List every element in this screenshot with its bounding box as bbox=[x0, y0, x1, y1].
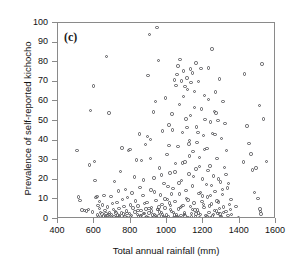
y-tick bbox=[52, 198, 57, 199]
data-point bbox=[206, 169, 209, 172]
x-tick-label: 1400 bbox=[219, 226, 259, 235]
data-point bbox=[262, 117, 265, 120]
data-point bbox=[142, 178, 145, 181]
data-point bbox=[230, 213, 233, 216]
data-point bbox=[189, 114, 192, 117]
data-point bbox=[184, 189, 187, 192]
data-point bbox=[221, 193, 224, 196]
x-tick bbox=[130, 218, 131, 223]
y-tick bbox=[52, 61, 57, 62]
y-tick bbox=[52, 120, 57, 121]
data-point bbox=[165, 153, 168, 156]
x-tick-label: 1000 bbox=[146, 226, 186, 235]
data-point bbox=[154, 100, 157, 103]
data-point bbox=[105, 55, 108, 58]
x-tick-label: 1600 bbox=[255, 226, 295, 235]
data-point bbox=[226, 186, 229, 189]
data-point bbox=[139, 214, 142, 217]
data-points-layer bbox=[58, 23, 274, 217]
x-tick bbox=[275, 218, 276, 223]
data-point bbox=[148, 33, 151, 36]
data-point bbox=[193, 90, 196, 93]
data-point bbox=[95, 195, 98, 198]
data-point bbox=[122, 205, 125, 208]
data-point bbox=[111, 216, 114, 217]
x-tick bbox=[166, 218, 167, 223]
data-point bbox=[149, 157, 152, 160]
data-point bbox=[214, 111, 217, 114]
data-point bbox=[135, 158, 138, 161]
y-tick bbox=[52, 81, 57, 82]
x-tick bbox=[239, 218, 240, 223]
data-point bbox=[265, 160, 268, 163]
data-point bbox=[191, 71, 194, 74]
data-point bbox=[227, 182, 230, 185]
data-point bbox=[189, 67, 192, 70]
data-point bbox=[133, 175, 136, 178]
data-point bbox=[222, 211, 225, 214]
data-point bbox=[167, 144, 170, 147]
panel-label: (c) bbox=[64, 30, 77, 45]
data-point bbox=[178, 103, 181, 106]
data-point bbox=[162, 182, 165, 185]
data-point bbox=[155, 26, 158, 29]
data-point bbox=[159, 193, 162, 196]
data-point bbox=[190, 215, 193, 217]
data-point bbox=[198, 165, 201, 168]
data-point bbox=[198, 156, 201, 159]
data-point bbox=[245, 124, 248, 127]
data-point bbox=[207, 98, 210, 101]
data-point bbox=[194, 167, 197, 170]
y-tick bbox=[52, 159, 57, 160]
data-point bbox=[207, 211, 210, 214]
y-tick bbox=[52, 22, 57, 23]
data-point bbox=[128, 148, 131, 151]
data-point bbox=[221, 100, 224, 103]
data-point bbox=[256, 197, 259, 200]
data-point bbox=[171, 187, 174, 190]
data-point bbox=[154, 214, 157, 217]
data-point bbox=[89, 109, 92, 112]
data-point bbox=[225, 149, 228, 152]
data-point bbox=[173, 78, 176, 81]
data-point bbox=[146, 216, 149, 217]
data-point bbox=[195, 141, 198, 144]
data-point bbox=[218, 77, 221, 80]
data-point bbox=[222, 205, 225, 208]
data-point bbox=[203, 148, 206, 151]
y-tick bbox=[52, 100, 57, 101]
data-point bbox=[164, 96, 167, 99]
data-point bbox=[181, 131, 184, 134]
data-point bbox=[195, 125, 198, 128]
data-point bbox=[184, 117, 187, 120]
data-point bbox=[75, 149, 78, 152]
data-point bbox=[188, 154, 191, 157]
data-point bbox=[242, 160, 245, 163]
data-point bbox=[111, 202, 114, 205]
data-point bbox=[91, 210, 94, 213]
x-tick bbox=[202, 218, 203, 223]
data-point bbox=[160, 173, 163, 176]
data-point bbox=[124, 188, 127, 191]
data-point bbox=[219, 215, 222, 217]
data-point bbox=[209, 194, 212, 197]
data-point bbox=[203, 94, 206, 97]
data-point bbox=[98, 207, 101, 210]
data-point bbox=[119, 170, 122, 173]
data-point bbox=[174, 84, 177, 87]
data-point bbox=[213, 190, 216, 193]
data-point bbox=[177, 181, 180, 184]
data-point bbox=[168, 171, 171, 174]
data-point bbox=[173, 200, 176, 203]
x-tick-label: 1200 bbox=[182, 226, 222, 235]
data-point bbox=[219, 180, 222, 183]
data-point bbox=[88, 163, 91, 166]
data-point bbox=[87, 208, 90, 211]
data-point bbox=[200, 107, 203, 110]
data-point bbox=[138, 132, 141, 135]
data-point bbox=[191, 184, 194, 187]
data-point bbox=[152, 110, 155, 113]
data-point bbox=[178, 58, 181, 61]
data-point bbox=[196, 131, 199, 134]
data-point bbox=[210, 47, 213, 50]
